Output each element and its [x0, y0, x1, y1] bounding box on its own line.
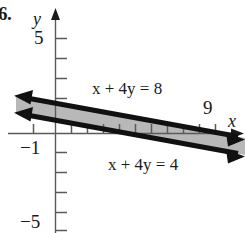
equation-label-lower: x + 4y = 4	[108, 156, 178, 173]
y-tick-label-negative-1: −1	[20, 138, 40, 157]
y-tick-label-5: 5	[34, 28, 44, 47]
x-tick-label-9: 9	[203, 98, 213, 117]
y-tick-label-negative-5: −5	[20, 212, 40, 231]
equation-label-upper: x + 4y = 8	[92, 80, 162, 97]
problem-number: 6.	[0, 4, 11, 23]
y-axis-ticks	[56, 39, 68, 231]
y-axis-label: y	[33, 10, 41, 28]
x-axis-label: x	[228, 112, 236, 130]
y-axis-arrowhead	[51, 8, 60, 20]
